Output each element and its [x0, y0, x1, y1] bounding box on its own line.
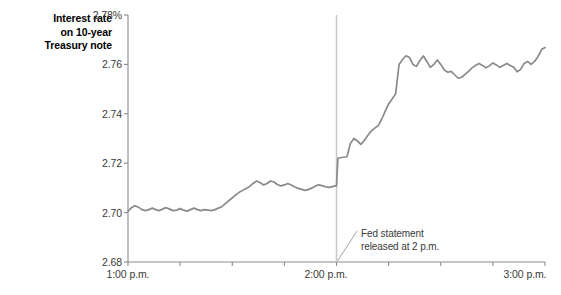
- annotation-leader-line: [338, 231, 358, 261]
- chart-canvas: [0, 0, 561, 295]
- chart-figure: Interest rate on 10-year Treasury note 2…: [0, 0, 561, 295]
